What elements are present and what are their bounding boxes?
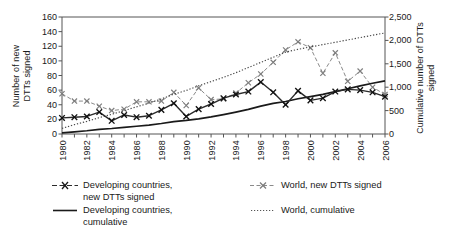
legend-label-developing-cumulative: Developing countries, cumulative [83, 205, 172, 228]
legend-item-world-cumulative[interactable]: World, cumulative [250, 205, 445, 217]
legend-key-developing-new [52, 180, 78, 191]
legend-item-developing-cumulative[interactable]: Developing countries, cumulative [52, 205, 242, 228]
legend-left-column: Developing countries, new DTTs signed De… [52, 180, 242, 230]
chart-figure: Number of new DTTs signed Cumulative num… [0, 0, 450, 238]
legend-right-column: World, new DTTs signed World, cumulative [250, 180, 445, 218]
series-world-new [59, 39, 387, 113]
legend-item-world-new[interactable]: World, new DTTs signed [250, 180, 445, 192]
legend-key-world-new [250, 180, 276, 191]
legend-label-world-cumulative: World, cumulative [281, 205, 355, 217]
legend-label-world-new: World, new DTTs signed [281, 180, 382, 192]
series-developing-new [59, 79, 388, 123]
legend-item-developing-new[interactable]: Developing countries, new DTTs signed [52, 180, 242, 203]
legend-label-developing-new: Developing countries, new DTTs signed [83, 180, 172, 203]
series-developing-cumulative [62, 81, 385, 133]
legend-key-developing-cumulative [52, 205, 78, 216]
legend-key-world-cumulative [250, 205, 276, 216]
